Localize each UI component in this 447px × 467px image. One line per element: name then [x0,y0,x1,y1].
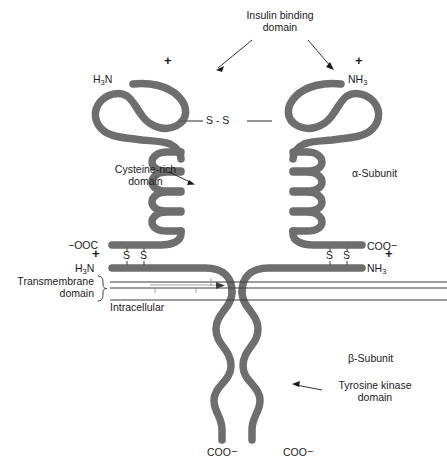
cysteine-rich-domain-line1: Cysteine-rich [99,163,192,175]
beta-right-n-terminus-charge: + [385,249,393,259]
alpha-subunit-label: α-Subunit [352,167,397,179]
beta-left-n-tail: N [87,262,95,274]
tyrosine-kinase-domain-line1: Tyrosine kinase [324,379,426,391]
alpha-beta-left-s2-label: S [140,249,147,261]
alpha-left-n-terminus-charge: + [164,56,172,66]
insulin-receptor-diagram: Insulin binding domain Cysteine-rich dom… [0,0,447,467]
alpha-left-n-main: H [93,73,101,85]
tyrosine-kinase-domain-label: Tyrosine kinase domain [324,379,426,403]
beta-left-c-minus: − [231,445,237,457]
cysteine-rich-domain-label: Cysteine-rich domain [99,163,192,187]
transmembrane-brace [98,276,107,301]
alpha-right-n-terminus-label: NH3 [348,73,367,89]
alpha-subunit-left-chain [95,84,185,160]
alpha-right-n-main: NH [348,73,363,85]
beta-right-c-terminus-label: COO− [274,445,322,458]
tyrosine-kinase-leader [292,381,322,390]
beta-right-c-minus: − [307,445,313,457]
alpha-alpha-disulfide-label: S - S [206,114,229,126]
alpha-beta-right-s1-label: S [326,249,333,261]
cysteine-rich-domain-right [293,152,322,231]
insulin-binding-leader-right [308,40,334,70]
beta-subunit-left-chain [112,268,232,440]
transmembrane-domain-line2: domain [2,287,94,299]
beta-left-n-main: H [75,262,83,274]
alpha-right-n-sub: 3 [363,78,367,87]
alpha-beta-right-s2-label: S [343,249,350,261]
beta-right-n-terminus-label: NH3 [367,262,386,278]
beta-left-n-terminus-charge: + [92,249,100,259]
alpha-right-n-terminus-charge: + [355,56,363,66]
intracellular-label: Intracellular [110,301,164,313]
transmembrane-domain-label: Transmembrane domain [2,275,94,299]
insulin-binding-domain-line1: Insulin binding [224,9,336,21]
alpha-left-n-terminus-label: H3N [93,73,112,89]
beta-subunit-right-chain [242,268,362,440]
insulin-binding-domain-label: Insulin binding domain [224,9,336,33]
beta-left-n-terminus-label: H3N [75,262,94,278]
membrane-tick-marks [150,278,225,293]
beta-right-c-main: COO [283,446,307,458]
beta-subunit-label: β-Subunit [348,352,393,364]
tyrosine-kinase-domain-line2: domain [324,391,426,403]
beta-right-n-sub: 3 [382,267,386,276]
cysteine-rich-domain-line2: domain [99,175,192,187]
beta-left-c-main: COO [207,446,231,458]
alpha-beta-left-s1-label: S [123,249,130,261]
beta-left-c-terminus-label: COO− [198,445,246,458]
alpha-subunit-right-chain [288,84,378,160]
insulin-binding-leader-left [216,40,252,72]
beta-right-n-main: NH [367,262,382,274]
alpha-left-n-tail: N [105,73,113,85]
insulin-binding-domain-line2: domain [224,21,336,33]
